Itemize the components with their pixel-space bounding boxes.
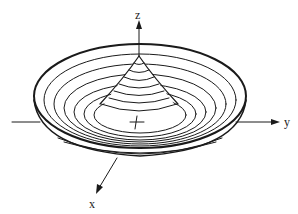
z-axis-label: z (135, 9, 140, 21)
x-axis (99, 158, 117, 188)
y-axis-arrowhead (271, 119, 280, 125)
x-axis-label: x (89, 198, 95, 210)
surface-plot-svg (0, 0, 298, 214)
y-axis-label: y (284, 116, 290, 128)
surface-figure: z y x (0, 0, 298, 214)
x-axis-arrowhead (96, 184, 103, 194)
